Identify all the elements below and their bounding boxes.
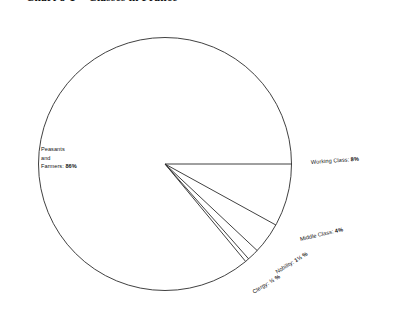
slice-label-peasants-line2: and — [41, 154, 77, 163]
slice-label-peasants-line3: Farmers: 86% — [41, 162, 77, 171]
pie-chart-figure: Chart 8-1Classes in France Peasants and … — [0, 0, 394, 326]
slice-label-peasants: Peasants and Farmers: 86% — [41, 145, 77, 171]
pie-divider-clergy-end — [165, 164, 246, 261]
slice-value-middle-class: 4% — [334, 226, 343, 234]
slice-label-peasants-name: Farmers: — [41, 163, 64, 169]
slice-label-working-class-name: Working Class: — [311, 156, 350, 165]
pie-divider-nobility-end — [165, 164, 249, 259]
slice-value-peasants: 86% — [65, 163, 76, 169]
slice-value-working-class: 8% — [351, 156, 360, 163]
slice-label-peasants-line1: Peasants — [41, 145, 77, 154]
